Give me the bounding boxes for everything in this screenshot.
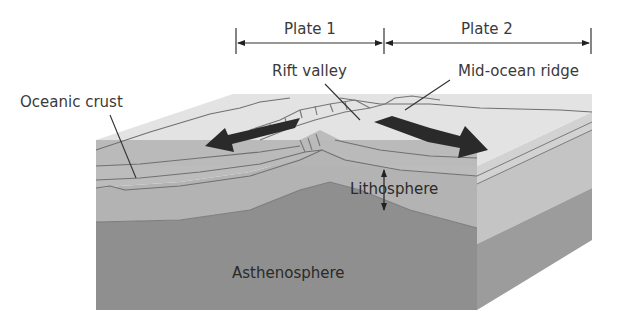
mid-ocean-ridge-label: Mid-ocean ridge <box>458 62 579 80</box>
lithosphere-label: Lithosphere <box>350 180 438 198</box>
rift-valley-label: Rift valley <box>272 62 347 80</box>
plate1-label: Plate 1 <box>284 20 336 38</box>
asthenosphere-label: Asthenosphere <box>232 264 345 282</box>
oceanic-crust-label: Oceanic crust <box>20 93 123 111</box>
divergent-boundary-diagram: Plate 1 Plate 2 Rift valley Mid-ocean ri… <box>0 0 617 326</box>
front-top-strip <box>96 140 477 166</box>
plate2-label: Plate 2 <box>461 20 513 38</box>
